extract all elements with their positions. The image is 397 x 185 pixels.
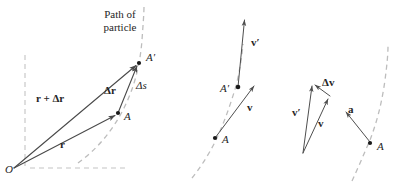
velocity-point-a-dot — [213, 136, 217, 140]
path-label-line2: particle — [104, 21, 137, 33]
acceleration-panel-group — [303, 46, 388, 181]
point-a-prime-dot — [137, 61, 141, 65]
velocity-point-a-prime-dot — [236, 85, 241, 90]
vector-v-triangle-label: v — [318, 117, 324, 130]
path-label-line1: Path of — [104, 8, 135, 20]
vector-v-prime-label: v′ — [251, 36, 260, 49]
vector-delta-v-label: Δv — [322, 76, 334, 89]
vector-v-prime-triangle-label: v′ — [292, 106, 301, 119]
acceleration-point-a-label: A — [377, 140, 384, 153]
vector-r-plus-delta-r-arrow — [14, 66, 136, 169]
vector-a-arrow — [346, 112, 370, 142]
origin-label: O — [5, 163, 13, 176]
vector-r-plus-delta-r-label: r + Δr — [36, 92, 64, 105]
velocity-point-a-label: A — [222, 133, 229, 146]
acceleration-point-a-dot — [368, 141, 372, 145]
arc-length-delta-s-label: Δs — [136, 79, 147, 92]
vector-delta-r-label: Δr — [104, 84, 116, 97]
point-a-dot — [116, 111, 120, 115]
physics-vector-figure: Path of particle O A A′ r r + Δr Δr Δs A… — [0, 0, 397, 185]
vector-v-label: v — [247, 101, 253, 114]
velocity-panel-group — [192, 20, 254, 178]
velocity-point-a-prime-label: A′ — [220, 82, 229, 95]
vector-r-label: r — [60, 138, 65, 151]
path-of-particle-label: Path of particle — [92, 8, 148, 34]
point-a-label: A — [124, 110, 131, 123]
vector-v-prime-arrow — [238, 20, 245, 87]
point-a-prime-label: A′ — [146, 51, 155, 64]
acceleration-path-curve — [352, 46, 388, 181]
vector-a-label: a — [348, 103, 354, 116]
